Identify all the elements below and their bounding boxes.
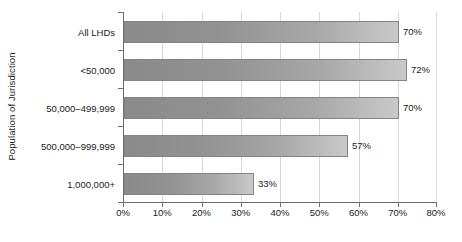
y-axis-tick [118,88,123,89]
x-tick-label-80: 80% [426,207,445,218]
category-label-all-lhds: All LHDs [20,27,115,38]
y-axis-title: Population of Jurisdiction [0,0,22,212]
y-axis-category-labels: All LHDs <50,000 50,000–499,999 500,000–… [22,12,119,202]
x-tick-label-0: 0% [116,207,130,218]
y-axis-tick [118,12,123,13]
bar-500000-999999 [124,135,348,157]
category-label-50000-499999: 50,000–499,999 [20,103,115,114]
bar-value-50000-499999: 70% [403,97,422,119]
x-tick-label-50: 50% [310,207,329,218]
x-tick-label-70: 70% [388,207,407,218]
bar-value-all-lhds: 70% [403,21,422,43]
bar-value-500000-999999: 57% [352,135,371,157]
category-label-under-50000: <50,000 [20,65,115,76]
x-axis-tick-labels: 0% 10% 20% 30% 40% 50% 60% 70% 80% [123,207,437,223]
x-tick-label-60: 60% [349,207,368,218]
category-label-1000000-plus: 1,000,000+ [20,179,115,190]
x-tick-label-10: 10% [153,207,172,218]
x-tick-label-20: 20% [192,207,211,218]
category-label-500000-999999: 500,000–999,999 [20,141,115,152]
y-axis-tick [118,50,123,51]
bar-50000-499999 [124,97,399,119]
bar-all-lhds [124,21,399,43]
gridline-80 [436,12,437,202]
bar-under-50000 [124,59,407,81]
bar-value-1000000-plus: 33% [258,173,277,195]
bar-chart: Population of Jurisdiction All LHDs <50,… [0,0,462,242]
plot-area: 70% 72% 70% 57% 33% [123,12,437,202]
bar-1000000-plus [124,173,254,195]
y-axis-tick [118,126,123,127]
x-tick-label-30: 30% [231,207,250,218]
y-axis-title-label: Population of Jurisdiction [6,52,17,160]
y-axis-tick [118,164,123,165]
x-tick-label-40: 40% [270,207,289,218]
bar-value-under-50000: 72% [411,59,430,81]
